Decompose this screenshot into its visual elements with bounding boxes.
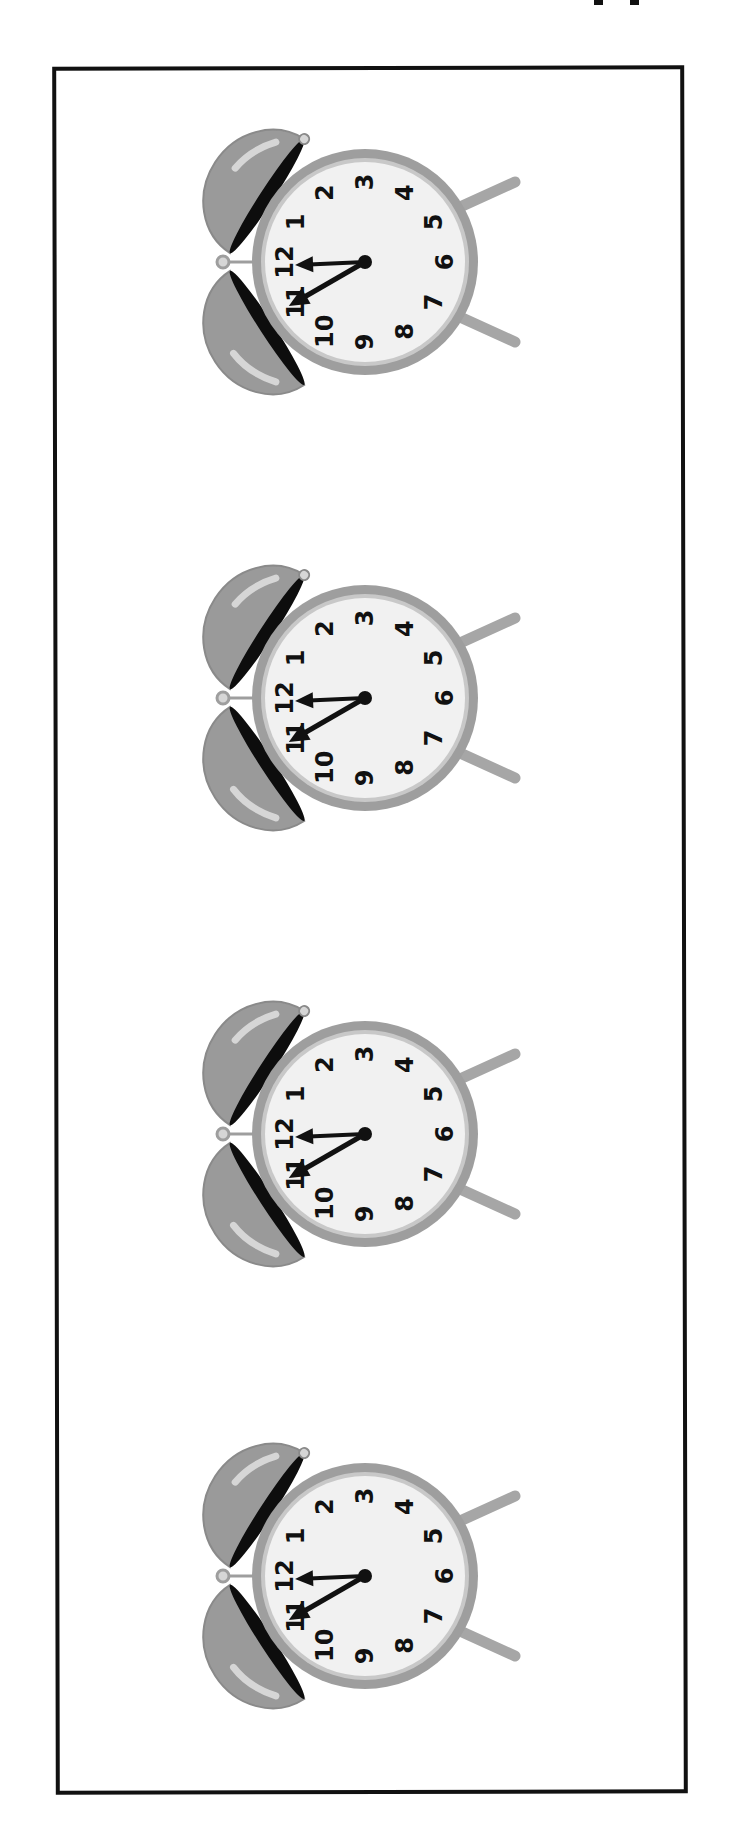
- clock-numeral: 12: [271, 1117, 299, 1150]
- clock-numeral: 6: [431, 254, 459, 271]
- clock-numeral: 4: [391, 1056, 419, 1073]
- alarm-clock-3: 121234567891011: [180, 969, 560, 1299]
- clock-hammer: [217, 1128, 253, 1140]
- clock-numeral: 9: [351, 334, 379, 351]
- clock-numeral: 4: [391, 620, 419, 637]
- clock-numeral: 2: [311, 1498, 339, 1515]
- clock-numeral: 4: [391, 1498, 419, 1515]
- clock-numeral: 2: [311, 1056, 339, 1073]
- clock-numeral: 6: [431, 690, 459, 707]
- clock-numeral: 6: [431, 1126, 459, 1143]
- clock-numeral: 8: [391, 1195, 419, 1212]
- clock-numeral: 5: [420, 1528, 448, 1545]
- clock-hammer: [217, 1570, 253, 1582]
- clock-numeral: 1: [282, 650, 310, 667]
- clock-numeral: 3: [351, 174, 379, 191]
- clock-numeral: 3: [351, 610, 379, 627]
- clock-numeral: 12: [271, 245, 299, 278]
- alarm-clock-graphic: 121234567891011: [180, 97, 560, 427]
- clock-numeral: 6: [431, 1568, 459, 1585]
- clock-numeral: 10: [311, 1187, 339, 1220]
- clock-numeral: 10: [311, 751, 339, 784]
- alarm-clock-2: 121234567891011: [180, 533, 560, 863]
- hand-pivot: [358, 1569, 372, 1583]
- clock-numeral: 1: [282, 1086, 310, 1103]
- clock-numeral: 3: [351, 1488, 379, 1505]
- clock-numeral: 8: [391, 1637, 419, 1654]
- clock-numeral: 9: [351, 770, 379, 787]
- cropped-glyph: [594, 0, 603, 5]
- clock-numeral: 8: [391, 759, 419, 776]
- clock-numeral: 10: [311, 315, 339, 348]
- clock-numeral: 7: [420, 1166, 448, 1183]
- clock-numeral: 5: [420, 1086, 448, 1103]
- clock-numeral: 2: [311, 184, 339, 201]
- clock-numeral: 5: [420, 650, 448, 667]
- clock-numeral: 1: [282, 1528, 310, 1545]
- hand-pivot: [358, 1127, 372, 1141]
- clock-numeral: 2: [311, 620, 339, 637]
- alarm-clock-4: 121234567891011: [180, 1411, 560, 1741]
- clock-numeral: 3: [351, 1046, 379, 1063]
- clock-numeral: 7: [420, 294, 448, 311]
- alarm-clock-graphic: 121234567891011: [180, 969, 560, 1299]
- clock-hammer: [217, 256, 253, 268]
- alarm-clock-1: 121234567891011: [180, 97, 560, 427]
- alarm-clock-graphic: 121234567891011: [180, 1411, 560, 1741]
- clock-numeral: 9: [351, 1648, 379, 1665]
- alarm-clock-graphic: 121234567891011: [180, 533, 560, 863]
- clock-numeral: 10: [311, 1629, 339, 1662]
- clock-numeral: 12: [271, 681, 299, 714]
- clock-numeral: 8: [391, 323, 419, 340]
- cropped-header-text: [594, 0, 654, 6]
- hand-pivot: [358, 255, 372, 269]
- clock-hammer: [217, 692, 253, 704]
- clock-numeral: 7: [420, 730, 448, 747]
- cropped-glyph: [630, 0, 639, 5]
- clock-numeral: 9: [351, 1206, 379, 1223]
- hand-pivot: [358, 691, 372, 705]
- clock-numeral: 12: [271, 1559, 299, 1592]
- clock-numeral: 1: [282, 214, 310, 231]
- clock-numeral: 7: [420, 1608, 448, 1625]
- clock-numeral: 5: [420, 214, 448, 231]
- clock-numeral: 4: [391, 184, 419, 201]
